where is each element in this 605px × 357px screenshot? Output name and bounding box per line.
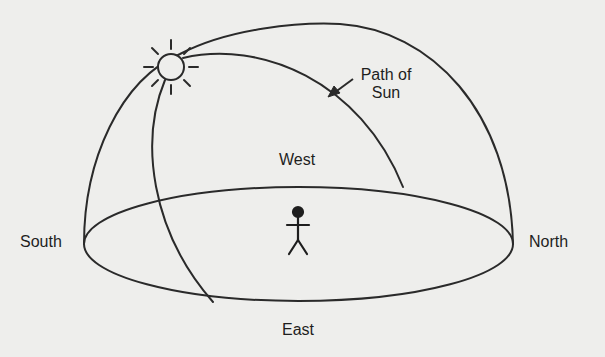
sun-east-arc <box>152 80 213 302</box>
stick-figure-icon <box>287 207 309 254</box>
east-label: East <box>282 321 314 339</box>
sun-icon <box>144 40 198 94</box>
south-label: South <box>20 233 62 251</box>
horizon-ellipse <box>84 187 513 301</box>
path-of-sun-label: Path of Sun <box>356 66 416 102</box>
west-label: West <box>279 151 315 169</box>
north-label: North <box>529 233 568 251</box>
sun-path-diagram: South North West East Path of Sun <box>0 0 605 357</box>
path-of-sun-label-line2: Sun <box>356 84 416 102</box>
arrow-icon <box>328 79 353 97</box>
diagram-drawing <box>0 0 605 357</box>
path-of-sun-label-line1: Path of <box>356 66 416 84</box>
